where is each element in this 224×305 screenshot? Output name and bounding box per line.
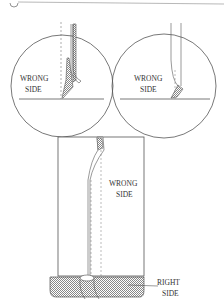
svg-text:SIDE: SIDE — [116, 190, 133, 199]
top-edge-fragment — [10, 2, 224, 7]
main-view: WRONG SIDE RIGHT SIDE — [50, 137, 180, 299]
svg-text:SIDE: SIDE — [140, 85, 157, 94]
detail-circle — [112, 34, 216, 138]
detail-left: WRONG SIDE — [11, 22, 113, 137]
right-side-label: RIGHT — [157, 278, 180, 287]
seam-end — [80, 275, 94, 281]
svg-text:SIDE: SIDE — [162, 289, 179, 298]
wrong-side-label-right: WRONG — [134, 74, 163, 83]
sewing-diagram: WRONG SIDE WRONG SIDE WRONG SIDE RIGHT S… — [0, 0, 224, 305]
svg-text:SIDE: SIDE — [25, 85, 42, 94]
detail-right: WRONG SIDE — [112, 23, 216, 138]
wrong-side-label-main: WRONG — [109, 179, 138, 188]
wrong-side-label-left: WRONG — [20, 74, 49, 83]
hem-band — [50, 277, 144, 297]
